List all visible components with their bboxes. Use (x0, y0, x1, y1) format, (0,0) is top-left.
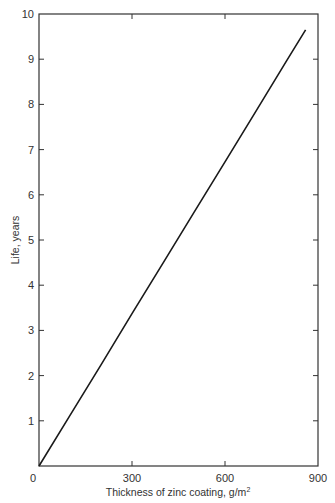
y-axis-label: Life, years (9, 216, 21, 264)
x-tick-label: 300 (123, 472, 141, 484)
y-tick-label: 5 (28, 234, 34, 246)
y-tick-label: 7 (28, 144, 34, 156)
x-tick-label: 0 (30, 472, 36, 484)
y-tick-label: 10 (22, 8, 34, 20)
y-tick-label: 8 (28, 98, 34, 110)
y-tick-label: 9 (28, 53, 34, 65)
y-tick-label: 6 (28, 189, 34, 201)
x-axis-ticks: 0300600900 (30, 14, 327, 484)
y-tick-label: 3 (28, 324, 34, 336)
y-tick-label: 4 (28, 279, 34, 291)
y-axis-ticks: 12345678910 (22, 8, 318, 427)
x-tick-label: 900 (309, 472, 327, 484)
line-chart: 12345678910 0300600900 Thickness of zinc… (0, 0, 335, 503)
x-axis-label: Thickness of zinc coating, g/m2 (106, 486, 251, 498)
y-tick-label: 1 (28, 415, 34, 427)
x-tick-label: 600 (216, 472, 234, 484)
data-line (39, 30, 306, 466)
y-tick-label: 2 (28, 370, 34, 382)
